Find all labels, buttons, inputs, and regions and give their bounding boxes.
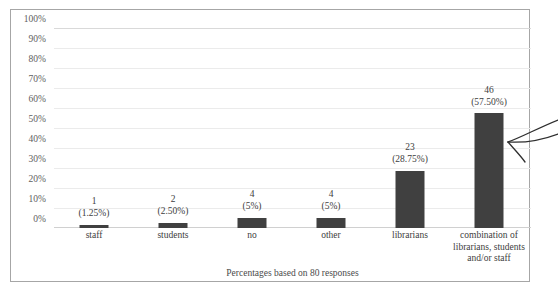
gridline-60: [54, 108, 531, 109]
gridline-90: [54, 48, 531, 49]
bar-percent-combination: (57.50%): [471, 97, 507, 109]
bar-percent-students: (2.50%): [158, 206, 189, 218]
bar-percent-librarians: (28.75%): [392, 154, 428, 166]
y-tick-80: 80%: [6, 54, 46, 64]
bar-label-students: 2 (2.50%): [158, 194, 189, 217]
gridline-20: [54, 188, 531, 189]
y-tick-50: 50%: [6, 114, 46, 124]
bar-combination[interactable]: [475, 113, 504, 228]
bar-percent-no: (5%): [243, 201, 262, 213]
gridline-50: [54, 128, 531, 129]
bar-count-other: 4: [322, 189, 341, 201]
bar-label-no: 4 (5%): [243, 189, 262, 212]
y-tick-20: 20%: [6, 174, 46, 184]
bar-students[interactable]: [159, 223, 188, 228]
bar-count-no: 4: [243, 189, 262, 201]
gridline-80: [54, 68, 531, 69]
gridline-100: [54, 28, 531, 29]
bar-count-students: 2: [158, 194, 189, 206]
x-label-combination: combination of librarians, students and/…: [441, 230, 537, 265]
y-tick-70: 70%: [6, 74, 46, 84]
y-tick-0: 0%: [6, 214, 46, 224]
gridline-30: [54, 168, 531, 169]
y-tick-40: 40%: [6, 134, 46, 144]
y-tick-30: 30%: [6, 154, 46, 164]
y-tick-60: 60%: [6, 94, 46, 104]
gridline-40: [54, 148, 531, 149]
bar-percent-other: (5%): [322, 201, 341, 213]
chart-frame: 100% 90% 80% 70% 60% 50% 40% 30% 20% 10%…: [10, 9, 530, 282]
x-axis-title: Percentages based on 80 responses: [54, 268, 531, 278]
y-tick-10: 10%: [6, 194, 46, 204]
plot-area: 1 (1.25%) 2 (2.50%) 4 (5%) 4 (5%): [54, 28, 531, 228]
bar-count-librarians: 23: [392, 142, 428, 154]
bar-label-librarians: 23 (28.75%): [392, 142, 428, 165]
gridline-70: [54, 88, 531, 89]
bar-no[interactable]: [238, 218, 267, 228]
bar-other[interactable]: [317, 218, 346, 228]
gridline-10: [54, 208, 531, 209]
bar-label-staff: 1 (1.25%): [79, 196, 110, 219]
bar-label-combination: 46 (57.50%): [471, 85, 507, 108]
bar-staff[interactable]: [80, 225, 109, 228]
bar-percent-staff: (1.25%): [79, 208, 110, 220]
y-tick-100: 100%: [6, 14, 46, 24]
bar-count-combination: 46: [471, 85, 507, 97]
gridline-0: [54, 227, 531, 228]
y-axis: 100% 90% 80% 70% 60% 50% 40% 30% 20% 10%…: [11, 10, 51, 281]
bar-count-staff: 1: [79, 196, 110, 208]
bar-librarians[interactable]: [396, 171, 425, 229]
y-tick-90: 90%: [6, 34, 46, 44]
bar-label-other: 4 (5%): [322, 189, 341, 212]
